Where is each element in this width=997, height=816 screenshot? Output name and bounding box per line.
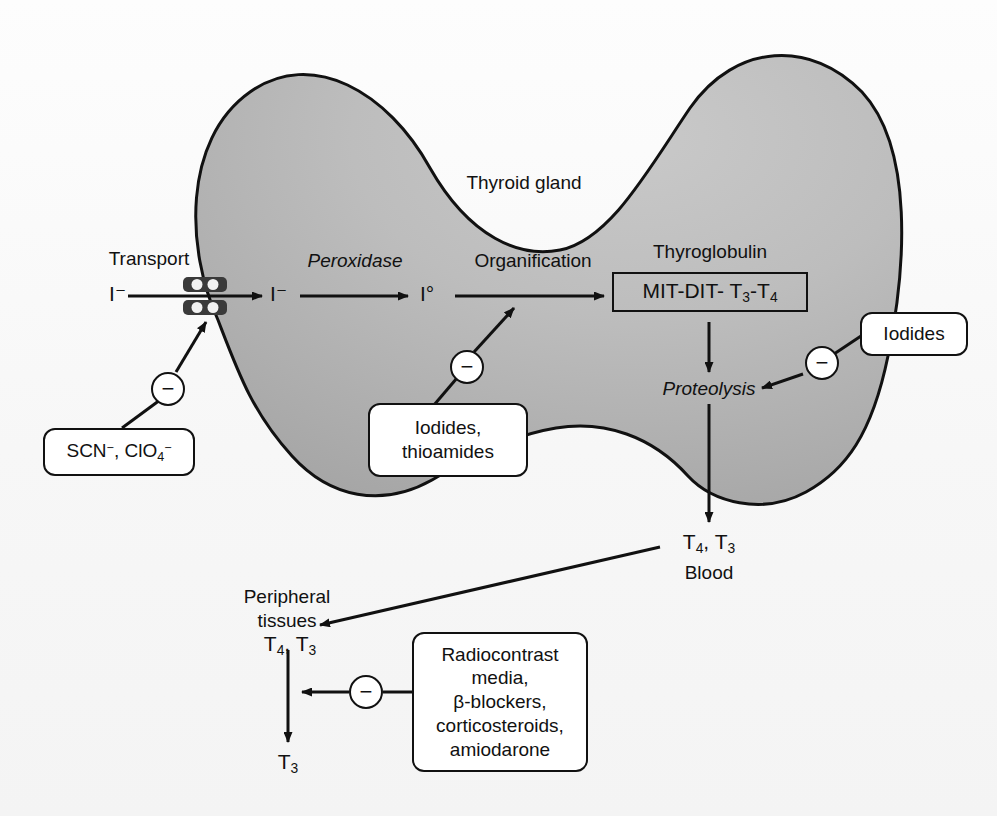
inhibition-node-organification: − <box>450 350 484 384</box>
thyroglobulin-contents: MIT-DIT- T3-T4 <box>642 279 777 305</box>
inhibitor-text-iodides-proteolysis: Iodides <box>883 322 944 346</box>
minus-icon: − <box>162 378 175 400</box>
compartment-label-peripheral-tissues-line2: tissues <box>257 610 316 632</box>
inhibitor-box-anion-transport: SCN−, ClO4− <box>43 428 195 476</box>
step-label-thyroglobulin: Thyroglobulin <box>653 241 767 263</box>
species-iodide-extracellular: I⁻ <box>109 282 126 307</box>
minus-icon: − <box>816 352 829 374</box>
step-label-transport: Transport <box>109 248 190 270</box>
species-iodide-intracellular: I⁻ <box>270 282 287 307</box>
inhibition-node-proteolysis: − <box>805 346 839 380</box>
connector-anion-box-to-minus <box>122 400 160 428</box>
arrow-minus-to-transport <box>176 322 206 372</box>
step-label-peroxidase: Peroxidase <box>307 250 402 272</box>
minus-icon: − <box>461 356 474 378</box>
species-hormones-tissue: T4, T3 <box>264 632 316 658</box>
figure-canvas: Thyroid gland Transport I⁻ I⁻ Peroxidase… <box>0 0 997 816</box>
step-label-proteolysis: Proteolysis <box>663 378 756 400</box>
inhibitor-box-organification: Iodides, thioamides <box>368 403 528 477</box>
species-hormone-product: T3 <box>278 750 299 776</box>
drug-line-beta-blockers: β-blockers, <box>453 690 546 714</box>
drug-line-radiocontrast: Radiocontrast <box>441 643 558 667</box>
drug-line-corticosteroids: corticosteroids, <box>436 714 564 738</box>
compartment-label-blood: Blood <box>685 562 734 584</box>
inhibition-node-transport: − <box>151 372 185 406</box>
inhibitor-text-thioamides: thioamides <box>402 440 494 464</box>
membrane-transporter-icon <box>182 276 228 316</box>
arrow-blood-to-peripheral <box>320 547 660 625</box>
thyroglobulin-box: MIT-DIT- T3-T4 <box>612 272 808 312</box>
gland-label: Thyroid gland <box>466 172 581 194</box>
inhibitor-box-peripheral-conversion: Radiocontrast media, β-blockers, cortico… <box>412 632 588 772</box>
drug-line-media: media, <box>471 666 528 690</box>
compartment-label-peripheral-tissues-line1: Peripheral <box>244 586 331 608</box>
drug-line-amiodarone: amiodarone <box>450 738 550 762</box>
inhibitor-text-anions: SCN−, ClO4− <box>66 439 171 465</box>
inhibition-node-peripheral-deiodination: − <box>349 675 383 709</box>
inhibitor-text-iodides: Iodides, <box>415 416 482 440</box>
species-oxidized-iodine: I° <box>420 282 434 307</box>
inhibitor-box-proteolysis: Iodides <box>860 312 968 356</box>
minus-icon: − <box>360 681 373 703</box>
species-hormones-blood: T4, T3 <box>683 530 735 556</box>
step-label-organification: Organification <box>474 250 591 272</box>
